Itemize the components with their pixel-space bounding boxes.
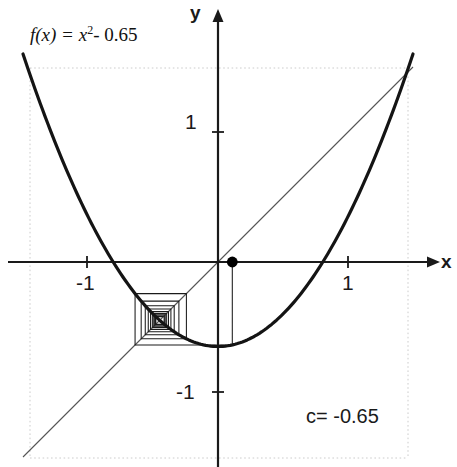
y-tick-label-positive-one: 1: [185, 111, 197, 132]
initial-point-marker: [227, 257, 238, 268]
plot-canvas: [0, 0, 457, 467]
x-axis: [8, 256, 440, 268]
cobweb-diagram-figure: f(x) = x2- 0.65 x y -1 1 1 -1 c= -0.65: [0, 0, 457, 467]
function-formula-prefix: f(x) = x: [30, 24, 87, 45]
parameter-c-label: c= -0.65: [306, 406, 379, 426]
y-axis-name-label: y: [190, 3, 201, 22]
x-tick-label-negative-one: -1: [76, 272, 95, 293]
x-tick-label-positive-one: 1: [342, 272, 354, 293]
function-formula-suffix: - 0.65: [93, 24, 137, 45]
y-tick-label-negative-one: -1: [176, 381, 195, 402]
y-axis: [212, 9, 224, 467]
x-axis-name-label: x: [441, 252, 452, 271]
function-formula-label: f(x) = x2- 0.65: [30, 24, 137, 44]
